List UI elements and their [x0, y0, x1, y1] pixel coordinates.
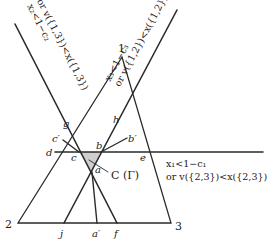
point-f-label: f	[113, 228, 120, 239]
point-h-label: h	[113, 114, 119, 125]
point-cprime-label: c′	[52, 133, 61, 144]
point-c-label: c	[71, 152, 77, 163]
segment-c-cprime	[63, 140, 79, 152]
vertex-2-label: 2	[5, 218, 12, 231]
constraint-x1-line1: x₁<1−c₁	[166, 158, 206, 169]
constraint-x2-text: x₂<1−c₂ or v({1,3})<x({1,3})	[25, 0, 91, 97]
point-aprime-label: a′	[92, 228, 101, 239]
point-d-label: d	[46, 147, 52, 158]
simplex-diagram: 1 2 3 a b c d e f g h j a′ b′ c′ C (Γ) x…	[0, 0, 273, 248]
point-a-label: a	[95, 164, 101, 175]
vertex-3-label: 3	[175, 220, 182, 233]
core-region-label: C (Γ)	[111, 169, 139, 182]
point-b-label: b	[96, 140, 102, 151]
constraint-x1-line2: or v({2,3})<x({2,3})	[166, 171, 267, 182]
point-e-label: e	[140, 152, 146, 163]
point-bprime-label: b′	[128, 133, 137, 144]
point-j-label: j	[58, 228, 63, 239]
point-g-label: g	[63, 118, 69, 129]
